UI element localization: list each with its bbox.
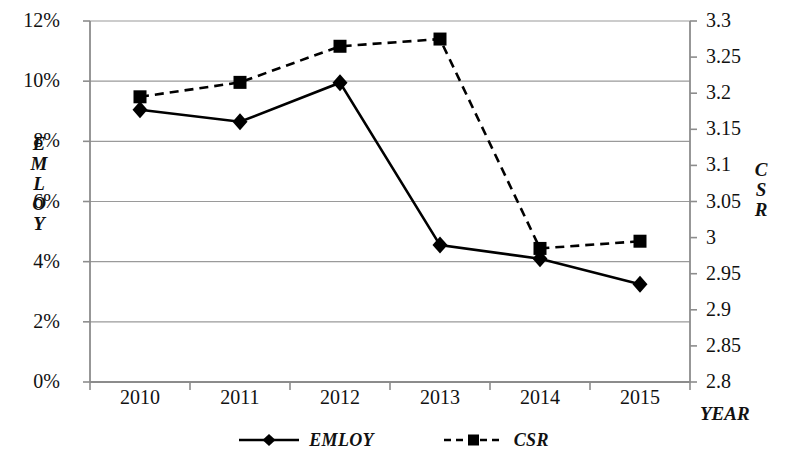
right-axis-tick-marks xyxy=(690,21,697,382)
data-point-emloy-2013 xyxy=(433,237,448,254)
right-axis-tick-label: 3 xyxy=(706,227,716,247)
legend-label-emloy: EMLOY xyxy=(309,430,374,451)
legend-item-csr: CSR xyxy=(442,430,549,451)
series-layer xyxy=(133,33,648,293)
data-point-emloy-2015 xyxy=(633,276,648,293)
left-axis-tick-label: 4% xyxy=(33,251,60,271)
data-point-emloy-2011 xyxy=(233,113,248,130)
x-axis-tick-label-2014: 2014 xyxy=(490,386,590,408)
series-line-csr xyxy=(140,39,640,248)
data-point-csr-2012 xyxy=(334,40,347,53)
data-point-csr-2014 xyxy=(534,242,547,255)
chart-legend: EMLOY CSR xyxy=(0,428,786,452)
gridlines xyxy=(90,21,690,382)
left-axis-tick-label: 2% xyxy=(33,311,60,331)
x-axis-title: YEAR xyxy=(700,404,784,424)
data-point-emloy-2012 xyxy=(333,74,348,91)
axis-title-letter: O xyxy=(26,194,52,214)
right-axis-tick-label: 2.95 xyxy=(706,263,741,283)
right-axis-tick-label: 3.1 xyxy=(706,154,731,174)
data-point-csr-2015 xyxy=(634,235,647,248)
right-axis-tick-label: 3.05 xyxy=(706,191,741,211)
chart-container: 0%2%4%6%8%10%12% 2.82.852.92.9533.053.13… xyxy=(0,0,786,452)
plot-area xyxy=(0,0,786,452)
x-axis-tick-label-2015: 2015 xyxy=(590,386,690,408)
right-axis-tick-label: 3.2 xyxy=(706,82,731,102)
axis-title-letter: M xyxy=(26,154,52,174)
y-axis-left-title: EMLOY xyxy=(26,134,52,234)
x-axis-tick-label-2010: 2010 xyxy=(90,386,190,408)
right-axis-tick-label: 2.9 xyxy=(706,299,731,319)
axis-title-letter: S xyxy=(748,180,774,200)
right-axis-tick-label: 2.85 xyxy=(706,335,741,355)
data-point-csr-2013 xyxy=(434,33,447,46)
left-axis-tick-marks xyxy=(83,21,90,382)
left-axis-tick-label: 12% xyxy=(23,10,60,30)
legend-label-csr: CSR xyxy=(514,430,549,451)
x-axis-tick-label-2012: 2012 xyxy=(290,386,390,408)
axis-title-letter: R xyxy=(748,200,774,220)
right-axis-tick-label: 3.25 xyxy=(706,46,741,66)
x-axis-tick-label-2011: 2011 xyxy=(190,386,290,408)
left-axis-tick-label: 0% xyxy=(33,371,60,391)
right-axis-tick-label: 3.15 xyxy=(706,118,741,138)
axis-title-letter: L xyxy=(26,174,52,194)
data-point-emloy-2010 xyxy=(133,101,148,118)
legend-marker-square-dashed xyxy=(442,433,506,447)
legend-item-emloy: EMLOY xyxy=(237,430,374,451)
axis-title-letter: C xyxy=(748,160,774,180)
x-axis-tick-label-2013: 2013 xyxy=(390,386,490,408)
right-axis-tick-label: 2.8 xyxy=(706,371,731,391)
axis-title-letter: Y xyxy=(26,214,52,234)
data-point-csr-2010 xyxy=(134,90,147,103)
data-point-csr-2011 xyxy=(234,76,247,89)
left-axis-tick-label: 10% xyxy=(23,70,60,90)
y-axis-right-title: CSR xyxy=(748,160,774,220)
axis-title-letter: E xyxy=(26,134,52,154)
legend-marker-diamond-solid xyxy=(237,433,301,447)
right-axis-tick-label: 3.3 xyxy=(706,10,731,30)
series-line-emloy xyxy=(140,83,640,285)
